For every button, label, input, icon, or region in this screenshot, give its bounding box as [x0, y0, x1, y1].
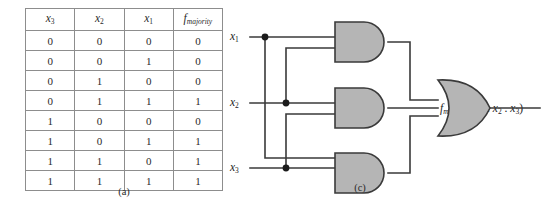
- truth-table-panel: x3 x2 x1 fmajority 000000100100011110001…: [25, 8, 223, 183]
- column-header-x2: x2: [75, 9, 124, 31]
- table-cell-x2: 1: [75, 71, 124, 91]
- table-cell-x2: 1: [75, 151, 124, 171]
- truth-table-body: 00000010010001111000101111011111: [26, 31, 223, 191]
- table-cell-fmajority: 1: [173, 131, 222, 151]
- table-cell-x3: 0: [26, 91, 75, 111]
- junction-dot-x1: [262, 34, 269, 41]
- table-cell-fmajority: 1: [173, 151, 222, 171]
- table-cell-x2: 1: [75, 91, 124, 111]
- table-cell-x1: 0: [124, 151, 173, 171]
- wire-and3-to-or: [388, 116, 438, 173]
- table-cell-x1: 0: [124, 71, 173, 91]
- table-cell-x3: 1: [26, 111, 75, 131]
- table-cell-fmajority: 1: [173, 91, 222, 111]
- table-row: 1000: [26, 111, 223, 131]
- table-row: 0100: [26, 71, 223, 91]
- table-row: 1011: [26, 131, 223, 151]
- table-row: 0010: [26, 51, 223, 71]
- table-header-row: x3 x2 x1 fmajority: [26, 9, 223, 31]
- junction-dot-x2: [283, 100, 290, 107]
- wire-and1-to-or: [388, 42, 438, 100]
- table-cell-x3: 1: [26, 151, 75, 171]
- table-cell-fmajority: 0: [173, 31, 222, 51]
- table-cell-fmajority: 0: [173, 111, 222, 131]
- and-gate-1: [335, 22, 384, 62]
- wire-x2-branch-to-and1: [286, 48, 335, 103]
- table-cell-x2: 0: [75, 111, 124, 131]
- caption-part-c: (c): [340, 182, 380, 193]
- column-header-x3: x3: [26, 9, 75, 31]
- table-row: 0000: [26, 31, 223, 51]
- table-cell-x2: 0: [75, 51, 124, 71]
- truth-table: x3 x2 x1 fmajority 000000100100011110001…: [25, 8, 223, 191]
- wire-x1-branch-to-and3: [265, 37, 335, 158]
- wire-x3-branch-to-and2: [286, 114, 335, 168]
- table-cell-x1: 1: [124, 51, 173, 71]
- table-cell-x3: 0: [26, 71, 75, 91]
- caption-part-a: (a): [0, 186, 248, 197]
- table-cell-fmajority: 0: [173, 71, 222, 91]
- logic-circuit-panel: x1 x2 x3 fmajority (x1 . x2 . x3): [228, 0, 550, 214]
- table-cell-x1: 1: [124, 131, 173, 151]
- column-header-x1: x1: [124, 9, 173, 31]
- table-row: 0111: [26, 91, 223, 111]
- column-header-fmajority: fmajority: [173, 9, 222, 31]
- table-cell-x3: 0: [26, 51, 75, 71]
- table-cell-x2: 0: [75, 131, 124, 151]
- and-gate-2: [335, 88, 384, 128]
- circuit-schematic-svg: [228, 0, 550, 214]
- table-cell-x3: 0: [26, 31, 75, 51]
- or-gate-1: [438, 80, 490, 136]
- table-cell-x1: 0: [124, 111, 173, 131]
- table-cell-x3: 1: [26, 131, 75, 151]
- table-row: 1101: [26, 151, 223, 171]
- junction-dot-x3: [283, 165, 290, 172]
- table-cell-x1: 1: [124, 91, 173, 111]
- table-cell-fmajority: 0: [173, 51, 222, 71]
- table-cell-x2: 0: [75, 31, 124, 51]
- table-cell-x1: 0: [124, 31, 173, 51]
